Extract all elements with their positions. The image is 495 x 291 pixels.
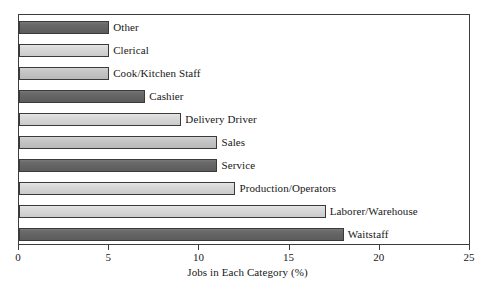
bar — [19, 67, 109, 80]
bar-category-label: Cashier — [149, 89, 183, 104]
x-axis-title: Jobs in Each Category (%) — [0, 266, 495, 278]
x-axis-tick-label: 0 — [3, 251, 33, 263]
x-axis-tick-label: 20 — [364, 251, 394, 263]
x-axis-tick-mark — [469, 245, 470, 250]
bar-category-label: Cook/Kitchen Staff — [113, 66, 200, 81]
x-axis-tick-label: 10 — [183, 251, 213, 263]
bar-category-label: Laborer/Warehouse — [330, 204, 418, 219]
bar-category-label: Waitstaff — [348, 227, 389, 242]
x-axis-tick-mark — [108, 245, 109, 250]
x-axis-tick-label: 15 — [274, 251, 304, 263]
x-axis-tick-mark — [18, 245, 19, 250]
bar-category-label: Clerical — [113, 43, 149, 58]
bars-layer: OtherClericalCook/Kitchen StaffCashierDe… — [19, 15, 470, 245]
bar-category-label: Sales — [221, 135, 245, 150]
x-axis-tick-mark — [289, 245, 290, 250]
x-axis-tick-label: 5 — [93, 251, 123, 263]
bar — [19, 205, 326, 218]
x-axis-tick-label: 25 — [454, 251, 484, 263]
bar — [19, 182, 235, 195]
bar-category-label: Delivery Driver — [185, 112, 256, 127]
bar-category-label: Service — [221, 158, 255, 173]
x-axis: 0510152025 — [18, 245, 470, 246]
x-axis-tick-mark — [379, 245, 380, 250]
bar — [19, 159, 217, 172]
bar — [19, 44, 109, 57]
bar-category-label: Production/Operators — [239, 181, 336, 196]
bar-category-label: Other — [113, 20, 139, 35]
bar — [19, 21, 109, 34]
bar — [19, 113, 181, 126]
bar — [19, 228, 344, 241]
bar — [19, 136, 217, 149]
bar — [19, 90, 145, 103]
bar-chart: OtherClericalCook/Kitchen StaffCashierDe… — [0, 0, 495, 291]
x-axis-tick-mark — [198, 245, 199, 250]
